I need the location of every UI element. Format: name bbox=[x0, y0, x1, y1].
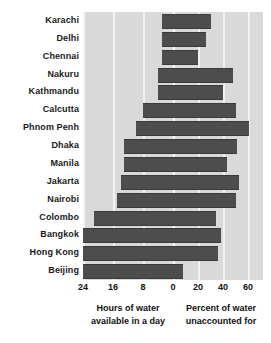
bar-hours-available bbox=[136, 121, 174, 136]
axis-captions: Hours of water available in a day Percen… bbox=[0, 302, 271, 342]
city-label: Chennai bbox=[0, 48, 79, 66]
tick-hours-16: 16 bbox=[108, 282, 118, 292]
bar-hours-available bbox=[117, 193, 173, 208]
city-label: Phnom Penh bbox=[0, 119, 79, 137]
plot-area bbox=[83, 12, 263, 280]
city-label: Manila bbox=[0, 155, 79, 173]
bar-row bbox=[83, 209, 263, 227]
left-axis-caption-line1: Hours of water bbox=[96, 303, 159, 313]
bar-hours-available bbox=[162, 14, 173, 29]
bar-row bbox=[83, 30, 263, 48]
bar-row bbox=[83, 262, 263, 280]
bar-hours-available bbox=[124, 157, 173, 172]
bar-percent-unaccounted bbox=[173, 157, 227, 172]
bar-hours-available bbox=[158, 85, 173, 100]
city-label: Dhaka bbox=[0, 137, 79, 155]
bar-row bbox=[83, 48, 263, 66]
city-label: Jakarta bbox=[0, 173, 79, 191]
left-axis-caption-line2: available in a day bbox=[83, 315, 173, 328]
bar-hours-available bbox=[158, 68, 173, 83]
bar-hours-available bbox=[94, 211, 173, 226]
bar-percent-unaccounted bbox=[173, 246, 218, 261]
bar-hours-available bbox=[162, 50, 173, 65]
bar-percent-unaccounted bbox=[173, 68, 233, 83]
tick-hours-8: 8 bbox=[140, 282, 145, 292]
bar-percent-unaccounted bbox=[173, 85, 223, 100]
tick-percent-40: 40 bbox=[218, 282, 228, 292]
bar-hours-available bbox=[83, 246, 173, 261]
bar-percent-unaccounted bbox=[173, 175, 239, 190]
tick-percent-60: 60 bbox=[243, 282, 253, 292]
water-supply-butterfly-chart: KarachiDelhiChennaiNakuruKathmanduCalcut… bbox=[0, 0, 271, 343]
bar-row bbox=[83, 191, 263, 209]
bar-hours-available bbox=[143, 103, 173, 118]
bar-percent-unaccounted bbox=[173, 228, 221, 243]
bar-percent-unaccounted bbox=[173, 50, 198, 65]
axis-tick-labels: 241680204060 bbox=[0, 282, 271, 296]
tick-hours-24: 24 bbox=[78, 282, 88, 292]
bar-percent-unaccounted bbox=[173, 32, 206, 47]
city-label: Hong Kong bbox=[0, 244, 79, 262]
bar-row bbox=[83, 101, 263, 119]
bar-row bbox=[83, 119, 263, 137]
bar-row bbox=[83, 83, 263, 101]
bar-hours-available bbox=[162, 32, 173, 47]
bar-hours-available bbox=[83, 228, 173, 243]
bar-row bbox=[83, 137, 263, 155]
bar-percent-unaccounted bbox=[173, 121, 249, 136]
city-label: Bangkok bbox=[0, 226, 79, 244]
bar-row bbox=[83, 155, 263, 173]
bar-percent-unaccounted bbox=[173, 139, 237, 154]
tick-hours-0: 0 bbox=[170, 282, 175, 292]
right-axis-caption-line2: unaccounted for bbox=[175, 315, 267, 328]
right-axis-caption-line1: Percent of water bbox=[186, 303, 256, 313]
bar-row bbox=[83, 244, 263, 262]
city-label: Colombo bbox=[0, 209, 79, 227]
bar-hours-available bbox=[124, 139, 173, 154]
left-axis-caption: Hours of water available in a day bbox=[83, 302, 173, 328]
city-label: Nakuru bbox=[0, 66, 79, 84]
bar-percent-unaccounted bbox=[173, 193, 236, 208]
city-label: Calcutta bbox=[0, 101, 79, 119]
right-axis-caption: Percent of water unaccounted for bbox=[175, 302, 267, 328]
bar-row bbox=[83, 173, 263, 191]
bar-hours-available bbox=[121, 175, 174, 190]
bar-row bbox=[83, 66, 263, 84]
bar-percent-unaccounted bbox=[173, 14, 211, 29]
bar-row bbox=[83, 226, 263, 244]
bar-percent-unaccounted bbox=[173, 211, 216, 226]
city-label: Karachi bbox=[0, 12, 79, 30]
city-label: Nairobi bbox=[0, 191, 79, 209]
bar-percent-unaccounted bbox=[173, 264, 183, 279]
city-label-column: KarachiDelhiChennaiNakuruKathmanduCalcut… bbox=[0, 12, 79, 280]
bar-hours-available bbox=[83, 264, 173, 279]
tick-percent-20: 20 bbox=[193, 282, 203, 292]
city-label: Kathmandu bbox=[0, 83, 79, 101]
city-label: Delhi bbox=[0, 30, 79, 48]
bar-row bbox=[83, 12, 263, 30]
bar-percent-unaccounted bbox=[173, 103, 236, 118]
city-label: Beijing bbox=[0, 262, 79, 280]
